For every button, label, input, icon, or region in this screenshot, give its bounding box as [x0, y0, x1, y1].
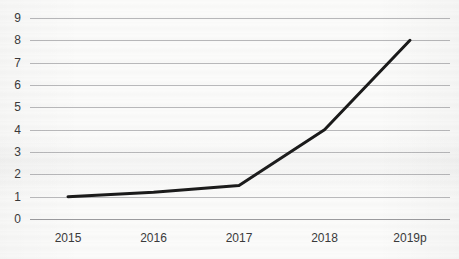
- y-tick-label-6: 6: [14, 79, 21, 91]
- y-tick-label-3: 3: [14, 146, 21, 158]
- y-tick-label-1: 1: [14, 191, 21, 203]
- x-axis-tick-labels: 20152016201720182019p: [30, 232, 450, 252]
- x-tick-label-2015: 2015: [55, 232, 82, 244]
- y-tick-label-5: 5: [14, 101, 21, 113]
- y-tick-label-2: 2: [14, 168, 21, 180]
- data-line-series: [68, 40, 410, 196]
- plot-area: 0123456789: [30, 18, 450, 219]
- y-tick-label-8: 8: [14, 34, 21, 46]
- y-tick-label-7: 7: [14, 57, 21, 69]
- y-tick-label-0: 0: [14, 213, 21, 225]
- y-tick-label-9: 9: [14, 12, 21, 24]
- y-tick-label-4: 4: [14, 124, 21, 136]
- gridline-0: [30, 219, 450, 220]
- x-tick-label-2019p: 2019p: [393, 232, 426, 244]
- x-tick-label-2017: 2017: [226, 232, 253, 244]
- data-series-svg: [30, 18, 450, 219]
- x-tick-label-2018: 2018: [311, 232, 338, 244]
- chart-screenshot: 0123456789 20152016201720182019p: [0, 0, 459, 259]
- x-tick-label-2016: 2016: [140, 232, 167, 244]
